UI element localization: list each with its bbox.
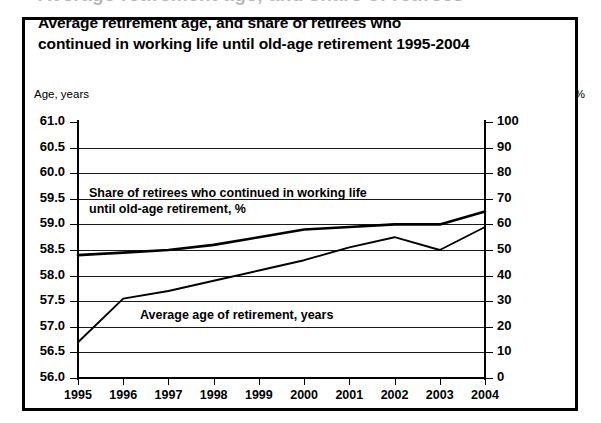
gridlines [78,122,485,378]
y-tick-label-left: 59.5 [40,190,65,205]
x-tick [123,379,124,385]
y-tick-left [70,224,78,225]
y-tick-right [485,199,493,200]
y-tick-label-left: 61.0 [40,113,65,128]
gridline [78,173,485,174]
gridline [78,148,485,149]
y-tick-label-right: 50 [497,241,511,256]
y-axis-caption-left: Age, years [34,88,89,100]
gridline [78,327,485,328]
y-tick-right [485,122,493,123]
x-tick [259,379,260,385]
y-tick-right [485,173,493,174]
y-tick-right [485,327,493,328]
annotation-average-series: Average age of retirement, years [140,308,333,324]
y-tick-left [70,173,78,174]
y-tick-label-right: 60 [497,215,511,230]
x-tick [485,379,486,385]
y-tick-right [485,148,493,149]
y-tick-label-left: 60.0 [40,164,65,179]
y-tick-label-left: 57.0 [40,318,65,333]
y-tick-right [485,301,493,302]
chart-figure: Average retirement age, and share of ret… [0,0,601,423]
y-tick-label-left: 56.0 [40,369,65,384]
chart-title-line-1: Average retirement age, and share of ret… [38,13,518,34]
y-tick-left [70,199,78,200]
gridline [78,276,485,277]
y-tick-label-left: 58.5 [40,241,65,256]
y-tick-label-right: 0 [497,369,504,384]
y-tick-label-right: 70 [497,190,511,205]
y-tick-left [70,327,78,328]
y-tick-right [485,352,493,353]
x-tick [168,379,169,385]
y-tick-label-left: 56.5 [40,343,65,358]
gridline [78,301,485,302]
y-tick-label-right: 80 [497,164,511,179]
annotation-share-line-1: Share of retirees who continued in worki… [89,186,367,202]
y-tick-label-left: 58.0 [40,267,65,282]
x-tick [395,379,396,385]
y-tick-left [70,276,78,277]
y-tick-label-left: 60.5 [40,139,65,154]
annotation-share-series: Share of retirees who continued in worki… [89,186,367,217]
y-tick-left [70,122,78,123]
gridline [78,224,485,225]
y-tick-label-left: 57.5 [40,292,65,307]
y-tick-label-right: 40 [497,267,511,282]
y-tick-left [70,148,78,149]
chart-title: Average retirement age, and share of ret… [38,13,518,54]
y-tick-label-right: 20 [497,318,511,333]
chart-title-line-2: continued in working life until old-age … [38,34,518,55]
x-tick [349,379,350,385]
annotation-share-line-2: until old-age retirement, % [89,202,367,218]
y-tick-label-right: 100 [497,113,519,128]
y-tick-left [70,301,78,302]
y-axis-caption-right: % [575,88,585,100]
y-tick-left [70,352,78,353]
gridline [78,352,485,353]
y-tick-left [70,378,78,379]
y-tick-right [485,224,493,225]
y-tick-right [485,378,493,379]
y-tick-left [70,250,78,251]
y-tick-label-right: 30 [497,292,511,307]
scan-bleed-label: Average retirement age, and share of ret… [38,0,464,6]
y-tick-right [485,276,493,277]
y-tick-label-right: 90 [497,139,511,154]
y-tick-right [485,250,493,251]
gridline [78,250,485,251]
y-tick-label-left: 59.0 [40,215,65,230]
x-tick [78,379,79,385]
x-tick [440,379,441,385]
x-tick-label: 2004 [455,388,515,402]
x-tick [304,379,305,385]
x-tick [214,379,215,385]
y-tick-label-right: 10 [497,343,511,358]
x-axis [77,377,486,379]
